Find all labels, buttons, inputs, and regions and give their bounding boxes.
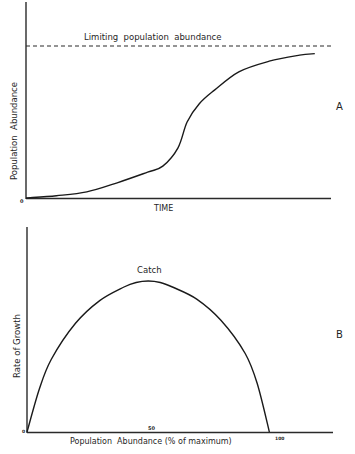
panel-a-y-label: Population Abundance (9, 82, 19, 180)
panel-a-letter: A (336, 101, 343, 112)
panel-b-origin-label: 0 (22, 429, 25, 434)
logistic-growth-curve (26, 54, 315, 198)
tick-label-100: 100 (275, 436, 284, 441)
tick-label-50: 50 (148, 425, 155, 431)
panel-a: Limiting population abundance Population… (9, 2, 343, 213)
figure: Limiting population abundance Population… (0, 0, 355, 454)
panel-a-origin-label: 0 (20, 198, 24, 204)
growth-rate-curve (27, 281, 269, 432)
panel-b-y-label: Rate of Growth (12, 314, 22, 378)
panel-b-letter: B (336, 329, 343, 340)
limiting-abundance-label: Limiting population abundance (84, 32, 222, 42)
panel-b-x-label: Population Abundance (% of maximum) (70, 437, 232, 446)
catch-label: Catch (137, 265, 162, 275)
panel-b: Catch Rate of Growth Population Abundanc… (12, 227, 343, 446)
panel-a-x-label: TIME (153, 204, 173, 213)
